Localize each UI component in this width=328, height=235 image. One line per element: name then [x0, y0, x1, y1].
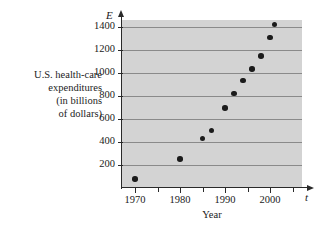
y-axis-tick-label: 200 — [99, 158, 115, 169]
scatter-chart: E t 200400600800100012001400 19701980199… — [0, 0, 328, 235]
figure-screenshot: U.S. health-care expenditures (in billio… — [0, 0, 328, 235]
y-axis-tick-label: 1000 — [94, 66, 115, 77]
y-axis-tick — [118, 27, 123, 28]
y-axis-tick — [118, 142, 123, 143]
y-axis-tick — [118, 73, 123, 74]
x-axis-tick-label: 1970 — [125, 194, 146, 205]
gridline — [122, 142, 302, 143]
data-point — [177, 156, 183, 162]
x-axis-tick-label: 2000 — [260, 194, 281, 205]
data-point — [240, 78, 246, 84]
x-axis-symbol: t — [305, 191, 308, 203]
gridline — [122, 27, 302, 28]
x-axis-tick — [270, 188, 271, 193]
x-axis-minor-tick — [293, 188, 294, 192]
x-axis-line — [121, 187, 309, 188]
x-axis-tick — [135, 188, 136, 193]
y-axis-tick — [118, 119, 123, 120]
x-axis-minor-tick — [203, 188, 204, 192]
data-point — [267, 35, 273, 41]
y-axis-tick-label: 600 — [99, 112, 115, 123]
y-axis-tick — [118, 96, 123, 97]
y-axis-arrow-icon — [118, 10, 124, 17]
gridline — [122, 50, 302, 51]
x-axis-title: Year — [122, 209, 302, 220]
data-point — [132, 176, 138, 182]
y-axis-tick-label: 800 — [99, 89, 115, 100]
data-point — [249, 66, 255, 72]
gridline — [122, 73, 302, 74]
y-axis-tick-label: 1200 — [94, 43, 115, 54]
gridline — [122, 165, 302, 166]
x-axis-minor-tick — [248, 188, 249, 192]
data-point — [258, 53, 264, 59]
x-axis-tick — [180, 188, 181, 193]
gridline — [122, 96, 302, 97]
x-axis-tick-label: 1980 — [170, 194, 191, 205]
x-axis-tick — [225, 188, 226, 193]
data-point — [222, 105, 228, 111]
y-axis-tick-label: 400 — [99, 135, 115, 146]
y-axis-line — [121, 16, 122, 189]
x-axis-minor-tick — [158, 188, 159, 192]
gridlines — [122, 20, 302, 188]
gridline — [122, 119, 302, 120]
y-axis-tick — [118, 50, 123, 51]
x-axis-tick-label: 1990 — [215, 194, 236, 205]
x-axis-arrow-icon — [307, 185, 314, 191]
y-axis-tick — [118, 165, 123, 166]
y-axis-tick-label: 1400 — [94, 20, 115, 31]
